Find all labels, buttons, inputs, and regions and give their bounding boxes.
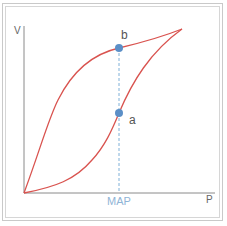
map-label: MAP: [107, 195, 131, 207]
x-axis-label: P: [206, 194, 213, 205]
y-axis-label: V: [14, 25, 21, 36]
point-a-label: a: [129, 113, 136, 127]
pv-loop-diagram: V P MAP b a: [0, 0, 227, 226]
point-b-label: b: [121, 28, 128, 42]
point-b: [115, 44, 123, 52]
point-a: [115, 109, 123, 117]
upper-curve: [24, 29, 182, 193]
